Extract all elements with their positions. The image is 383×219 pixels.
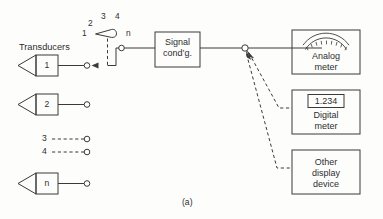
transducer-2-label: 2 [36, 94, 58, 115]
digital-meter-reading: 1.234 [308, 95, 344, 108]
other-display-line1: Other [292, 157, 360, 167]
analog-meter-line2: meter [292, 62, 360, 72]
rotary-selector-switch[interactable] [92, 29, 125, 68]
other-display-line3: device [292, 179, 360, 189]
switch-contact-n-label[interactable]: n [126, 29, 131, 38]
instrumentation-block-diagram: Transducers 1 2 3 4 n 1 2 3 4 n Signal c… [0, 0, 383, 219]
digital-meter-line1: Digital [292, 110, 360, 120]
transducer-1-terminal[interactable] [84, 63, 90, 69]
analog-meter-line1: Analog [292, 51, 360, 61]
digital-meter-line2: meter [292, 121, 360, 131]
switch-contact-1-label[interactable]: 1 [82, 29, 87, 38]
transducer-3-placeholder [52, 136, 90, 142]
signal-conditioner-line1: Signal [155, 37, 200, 47]
dashed-link-other-display [247, 54, 293, 168]
transducers-group-label: Transducers [19, 42, 70, 52]
dashed-link-digital-meter [249, 53, 292, 108]
figure-caption: (a) [182, 198, 193, 208]
transducer-4-placeholder [52, 149, 90, 155]
switch-contact-4-label[interactable]: 4 [115, 12, 120, 21]
transducer-n-terminal[interactable] [84, 181, 90, 187]
signal-tap-junction[interactable] [242, 45, 248, 51]
selector-arrow-icon [92, 63, 99, 69]
transducer-4-terminal[interactable] [84, 149, 90, 155]
switch-common-terminal[interactable] [119, 45, 125, 51]
channel-4-label: 4 [42, 147, 47, 157]
transducer-1-label: 1 [36, 55, 58, 76]
switch-contact-2-label[interactable]: 2 [88, 19, 93, 28]
transducer-2-terminal[interactable] [84, 102, 90, 108]
other-display-line2: display [292, 168, 360, 178]
transducer-3-terminal[interactable] [84, 136, 90, 142]
channel-3-label: 3 [42, 134, 47, 144]
signal-conditioner-line2: cond’g. [155, 48, 200, 58]
switch-contact-3-label[interactable]: 3 [101, 12, 106, 21]
transducer-n-label: n [36, 173, 58, 194]
